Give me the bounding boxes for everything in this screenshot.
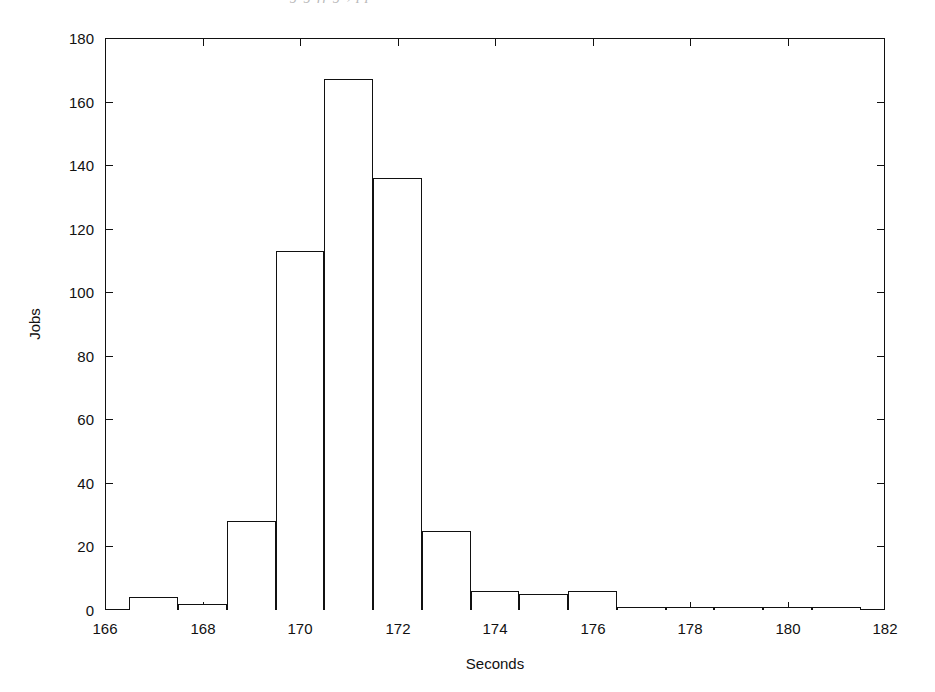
x-axis-title: Seconds [466,655,524,672]
histogram-bar [714,607,763,610]
x-tick-label: 176 [580,620,605,637]
x-tick-label: 166 [92,620,117,637]
page-canvas: g g ff g , pp 020406080100120140160180 1… [0,0,935,692]
y-tick-label: 60 [77,411,94,428]
histogram-bar [471,591,520,610]
y-axis-title: Jobs [26,308,43,340]
histogram-bar [422,531,471,610]
y-tick-label: 120 [69,221,94,238]
x-tick-label: 182 [872,620,897,637]
histogram-bar [666,607,715,610]
histogram-bar [568,591,617,610]
x-tick-label: 174 [482,620,507,637]
x-tick-label: 172 [385,620,410,637]
y-tick-label: 0 [86,602,94,619]
histogram-bars [105,38,885,610]
x-tick-label: 178 [677,620,702,637]
histogram-chart: 020406080100120140160180 166168170172174… [0,0,935,692]
histogram-bar [812,607,861,610]
y-tick-label: 160 [69,94,94,111]
histogram-bar [373,178,422,610]
histogram-bar [763,607,812,610]
histogram-bar [617,607,666,610]
y-tick-label: 20 [77,538,94,555]
x-tick-label: 180 [775,620,800,637]
histogram-bar [324,79,373,610]
y-tick-label: 40 [77,475,94,492]
y-tick-label: 100 [69,284,94,301]
histogram-bar [519,594,568,610]
x-tick-label: 168 [190,620,215,637]
histogram-bar [276,251,325,610]
histogram-bar [129,597,178,610]
x-tick-label: 170 [287,620,312,637]
histogram-bar [227,521,276,610]
histogram-bar [178,604,227,610]
y-tick-label: 80 [77,348,94,365]
y-tick-label: 180 [69,30,94,47]
y-tick-label: 140 [69,157,94,174]
